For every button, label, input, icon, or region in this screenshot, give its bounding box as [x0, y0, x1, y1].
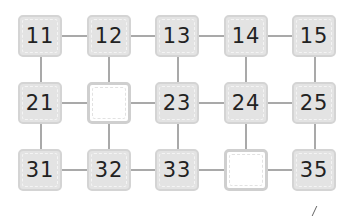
- cell-number: 33: [163, 158, 192, 182]
- number-grid-diagram: 11 12 13 14 15 21 23 24 25 31 32 33 35: [0, 0, 351, 218]
- number-cell: 24: [224, 82, 268, 124]
- cell-number: 14: [232, 24, 261, 48]
- connector: [314, 124, 316, 149]
- connector: [62, 169, 89, 171]
- connector: [199, 169, 226, 171]
- cell-number: 23: [163, 91, 192, 115]
- cell-number: 31: [26, 158, 55, 182]
- number-cell: 12: [87, 15, 131, 57]
- number-cell: 15: [292, 15, 336, 57]
- number-cell: 25: [292, 82, 336, 124]
- number-cell: 32: [87, 149, 131, 191]
- number-cell: 33: [155, 149, 199, 191]
- number-cell: 14: [224, 15, 268, 57]
- connector: [62, 102, 89, 104]
- cell-number: 25: [300, 91, 329, 115]
- connector: [40, 124, 42, 149]
- cell-number: 13: [163, 24, 192, 48]
- connector: [108, 124, 110, 149]
- connector: [131, 102, 158, 104]
- pencil-mark: [312, 206, 321, 216]
- connector: [314, 57, 316, 82]
- connector: [245, 124, 247, 149]
- connector: [268, 169, 295, 171]
- number-cell: 31: [18, 149, 62, 191]
- cell-number: 15: [300, 24, 329, 48]
- connector: [268, 35, 295, 37]
- connector: [131, 35, 158, 37]
- cell-number: 11: [26, 24, 55, 48]
- connector: [131, 169, 158, 171]
- number-cell: 11: [18, 15, 62, 57]
- number-cell: 21: [18, 82, 62, 124]
- connector: [199, 35, 226, 37]
- blank-answer-cell[interactable]: [87, 82, 131, 124]
- cell-number: 32: [95, 158, 124, 182]
- connector: [62, 35, 89, 37]
- connector: [268, 102, 295, 104]
- number-cell: 13: [155, 15, 199, 57]
- connector: [177, 57, 179, 82]
- connector: [40, 57, 42, 82]
- connector: [108, 57, 110, 82]
- cell-number: 35: [300, 158, 329, 182]
- cell-number: 21: [26, 91, 55, 115]
- number-cell: 35: [292, 149, 336, 191]
- number-cell: 23: [155, 82, 199, 124]
- cell-number: 24: [232, 91, 261, 115]
- connector: [245, 57, 247, 82]
- connector: [199, 102, 226, 104]
- cell-number: 12: [95, 24, 124, 48]
- connector: [177, 124, 179, 149]
- blank-answer-cell[interactable]: [224, 149, 268, 191]
